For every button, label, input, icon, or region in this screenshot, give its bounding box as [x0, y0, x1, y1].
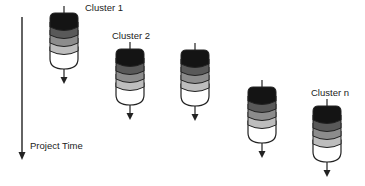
cluster-layer-1 — [313, 106, 341, 124]
cluster-layer-1 — [248, 87, 276, 105]
cluster-stack — [50, 6, 78, 84]
cluster-layer-1 — [50, 13, 78, 31]
project-time-label: Project Time — [30, 141, 83, 151]
cluster-timeline-diagram: Project Time Cluster 1 Cluster 2 Cluster… — [0, 0, 365, 186]
cluster-stack — [313, 99, 341, 177]
arrow-down-icon — [19, 152, 26, 160]
cluster-layer-1 — [181, 50, 209, 68]
cluster-1-label: Cluster 1 — [85, 3, 123, 13]
cluster-layer-1 — [116, 49, 144, 67]
cluster-2-label: Cluster 2 — [112, 31, 150, 41]
arrow-down-icon — [259, 151, 266, 158]
arrow-down-icon — [127, 113, 134, 120]
arrow-down-icon — [324, 170, 331, 177]
cluster-stack — [248, 80, 276, 158]
cluster-stack — [181, 43, 209, 121]
cluster-stack — [116, 42, 144, 120]
arrow-down-icon — [192, 114, 199, 121]
cluster-n-label: Cluster n — [311, 88, 349, 98]
time-axis-arrow — [19, 17, 26, 160]
arrow-down-icon — [61, 77, 68, 84]
